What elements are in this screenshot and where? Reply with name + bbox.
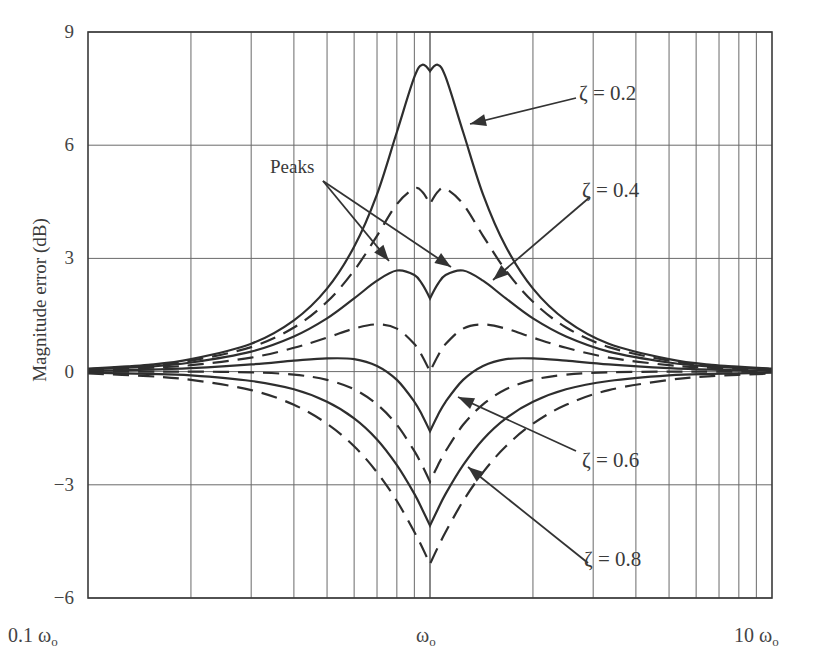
x-tick-label: 0.1 ωo (8, 625, 58, 648)
zeta-label: ζ = 0.2 (579, 83, 636, 104)
annotation-arrow (458, 397, 576, 451)
arrowhead-icon (458, 397, 475, 409)
plot-grid (88, 32, 772, 598)
chart-canvas (0, 0, 816, 672)
x-tick-label: 10 ωo (734, 625, 779, 648)
annotation-arrow (493, 197, 590, 280)
zeta-label: ζ = 0.4 (582, 180, 639, 201)
annotation-arrow (468, 467, 588, 563)
peaks-label: Peaks (270, 157, 314, 176)
annotation-arrow (323, 181, 451, 267)
zeta-label: ζ = 0.6 (582, 450, 639, 471)
zeta-label: ζ = 0.8 (584, 549, 641, 570)
y-tick-label: 6 (34, 135, 74, 154)
y-axis-label: Magnitude error (dB) (29, 218, 51, 382)
annotation-arrows (323, 98, 590, 563)
x-tick-label: ωo (416, 625, 436, 648)
arrowhead-icon (470, 114, 487, 126)
arrowhead-icon (468, 467, 484, 482)
annotation-arrow (470, 98, 576, 124)
y-tick-label: −3 (34, 475, 74, 494)
y-tick-label: 9 (34, 22, 74, 41)
y-tick-label: −6 (34, 588, 74, 607)
arrowhead-icon (434, 253, 451, 267)
